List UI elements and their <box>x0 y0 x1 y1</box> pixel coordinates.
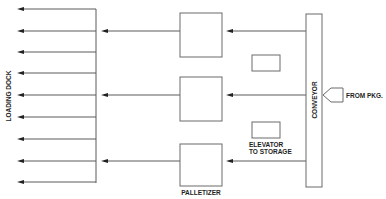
palletizer-box-2 <box>180 77 222 121</box>
palletizer-box-1 <box>180 13 222 57</box>
elevator-label-line1: ELEVATOR <box>249 141 284 148</box>
dock-output-arrow <box>17 93 96 97</box>
dock-output-arrow <box>17 137 96 141</box>
conveyor-to-palletizer-arrow <box>226 159 306 163</box>
dock-output-arrow <box>17 115 96 119</box>
dock-output-arrow <box>17 159 96 163</box>
dock-output-arrow <box>17 180 96 184</box>
elevator-label-line2: TO STORAGE <box>249 148 292 155</box>
palletizer-to-bus-arrow <box>101 159 180 163</box>
loading-dock-outputs <box>17 7 96 184</box>
from-pkg-input-arrow <box>323 88 343 102</box>
palletizer-label: PALLETIZER <box>181 189 221 196</box>
elevator-box-2 <box>252 122 280 138</box>
dock-output-arrow <box>17 71 96 75</box>
palletizer-output-arrows <box>101 29 180 163</box>
conveyor-label: CONVEYOR <box>311 81 318 119</box>
dock-output-arrow <box>17 7 96 11</box>
conveyor-to-palletizer-arrow <box>226 93 306 97</box>
palletizer-to-bus-arrow <box>101 93 180 97</box>
palletizer-box-3 <box>180 144 222 186</box>
dock-output-arrow <box>17 50 96 54</box>
dock-output-arrow <box>17 29 96 33</box>
loading-dock-label: LOADING DOCK <box>5 70 12 121</box>
from-pkg-label: FROM PKG. <box>346 92 383 99</box>
conveyor-to-palletizer-arrow <box>226 29 306 33</box>
warehouse-flow-diagram: LOADING DOCK PALLETIZER ELEVATOR TO STOR… <box>0 0 386 199</box>
palletizer-to-bus-arrow <box>101 29 180 33</box>
elevator-box-1 <box>252 55 280 71</box>
